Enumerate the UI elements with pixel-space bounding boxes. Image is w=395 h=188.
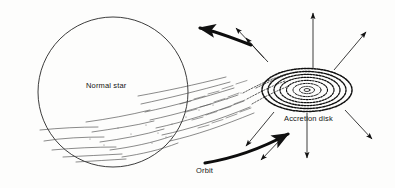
accretion-disk-rings <box>262 69 352 112</box>
normal-star-body <box>38 17 188 167</box>
orbit-arrow-upper <box>200 28 251 45</box>
radiation-arrow-up-right <box>334 32 366 70</box>
astronomy-diagram <box>0 0 395 188</box>
orbit-label: Orbit <box>196 167 213 175</box>
radiation-arrow-down-left <box>246 112 274 146</box>
normal-star-label: Normal star <box>86 82 126 90</box>
orbit-arrow-lower <box>205 134 288 163</box>
accretion-disk-label: Accretion disk <box>284 115 333 123</box>
radiation-arrow-top-tip <box>246 38 264 58</box>
gas-stream-striations <box>40 77 254 162</box>
radiation-arrow-down-right <box>345 110 372 139</box>
figure-canvas: Normal star Accretion disk Orbit <box>0 0 395 188</box>
